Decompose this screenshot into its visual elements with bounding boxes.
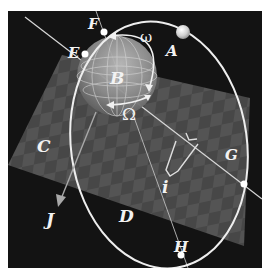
label-G: G <box>225 146 238 164</box>
label-F: F <box>87 15 100 33</box>
label-B: B <box>109 68 124 88</box>
label-i: i <box>162 177 168 197</box>
point-G <box>241 181 248 188</box>
label-D: D <box>118 206 134 226</box>
point-F <box>101 29 108 36</box>
orbital-elements-diagram: F E A B ω Ω C G i J D H <box>0 0 271 279</box>
label-A: A <box>164 42 178 60</box>
orbiting-body-A <box>176 25 190 39</box>
label-C: C <box>37 136 51 156</box>
label-omega: ω <box>140 28 152 46</box>
label-E: E <box>67 44 80 62</box>
label-Omega: Ω <box>122 104 136 124</box>
point-E <box>82 51 89 58</box>
label-H: H <box>173 238 189 256</box>
